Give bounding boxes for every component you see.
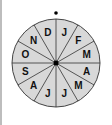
month-label: J bbox=[61, 27, 67, 38]
month-label: A bbox=[30, 80, 37, 91]
month-label: N bbox=[30, 35, 37, 46]
center-hub bbox=[54, 61, 59, 66]
top-marker-dot bbox=[54, 11, 58, 15]
month-label: J bbox=[61, 88, 67, 99]
month-label: O bbox=[22, 49, 30, 60]
month-label: D bbox=[44, 27, 51, 38]
month-label: S bbox=[22, 66, 29, 77]
month-label: M bbox=[74, 80, 82, 91]
month-label: F bbox=[75, 35, 81, 46]
month-label: A bbox=[83, 66, 90, 77]
month-label: M bbox=[82, 49, 90, 60]
month-label: J bbox=[45, 88, 51, 99]
month-wheel: JFMAMJJASOND bbox=[0, 0, 112, 125]
